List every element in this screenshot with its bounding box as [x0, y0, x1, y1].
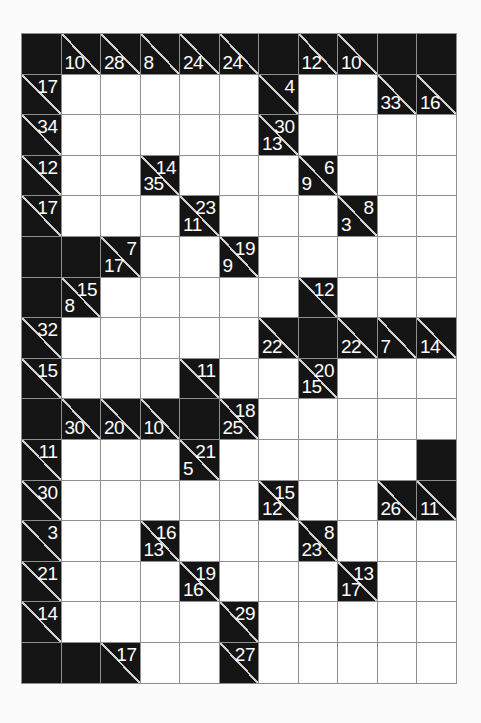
entry-cell[interactable] [62, 75, 101, 115]
entry-cell[interactable] [141, 115, 180, 155]
entry-cell[interactable] [338, 481, 377, 521]
entry-cell[interactable] [338, 75, 377, 115]
entry-cell[interactable] [141, 278, 180, 318]
entry-cell[interactable] [101, 278, 140, 318]
entry-cell[interactable] [62, 359, 101, 399]
entry-cell[interactable] [417, 237, 456, 277]
entry-cell[interactable] [378, 115, 417, 155]
entry-cell[interactable] [417, 521, 456, 561]
entry-cell[interactable] [141, 481, 180, 521]
entry-cell[interactable] [417, 115, 456, 155]
entry-cell[interactable] [259, 643, 298, 683]
entry-cell[interactable] [417, 643, 456, 683]
entry-cell[interactable] [259, 156, 298, 196]
entry-cell[interactable] [101, 196, 140, 236]
entry-cell[interactable] [62, 602, 101, 642]
entry-cell[interactable] [378, 359, 417, 399]
entry-cell[interactable] [101, 115, 140, 155]
entry-cell[interactable] [220, 318, 259, 358]
entry-cell[interactable] [378, 237, 417, 277]
entry-cell[interactable] [299, 75, 338, 115]
entry-cell[interactable] [220, 359, 259, 399]
entry-cell[interactable] [180, 278, 219, 318]
entry-cell[interactable] [220, 481, 259, 521]
entry-cell[interactable] [259, 602, 298, 642]
entry-cell[interactable] [338, 359, 377, 399]
entry-cell[interactable] [180, 318, 219, 358]
entry-cell[interactable] [141, 602, 180, 642]
entry-cell[interactable] [259, 359, 298, 399]
entry-cell[interactable] [220, 562, 259, 602]
entry-cell[interactable] [378, 278, 417, 318]
entry-cell[interactable] [299, 115, 338, 155]
entry-cell[interactable] [62, 156, 101, 196]
entry-cell[interactable] [417, 399, 456, 439]
entry-cell[interactable] [378, 562, 417, 602]
entry-cell[interactable] [259, 399, 298, 439]
entry-cell[interactable] [378, 643, 417, 683]
entry-cell[interactable] [338, 278, 377, 318]
entry-cell[interactable] [180, 237, 219, 277]
entry-cell[interactable] [378, 156, 417, 196]
entry-cell[interactable] [220, 156, 259, 196]
entry-cell[interactable] [220, 75, 259, 115]
entry-cell[interactable] [62, 196, 101, 236]
entry-cell[interactable] [220, 196, 259, 236]
entry-cell[interactable] [417, 196, 456, 236]
entry-cell[interactable] [378, 196, 417, 236]
entry-cell[interactable] [417, 278, 456, 318]
entry-cell[interactable] [417, 602, 456, 642]
entry-cell[interactable] [299, 237, 338, 277]
entry-cell[interactable] [417, 359, 456, 399]
entry-cell[interactable] [220, 278, 259, 318]
entry-cell[interactable] [259, 278, 298, 318]
entry-cell[interactable] [338, 399, 377, 439]
entry-cell[interactable] [180, 481, 219, 521]
entry-cell[interactable] [338, 115, 377, 155]
entry-cell[interactable] [101, 521, 140, 561]
entry-cell[interactable] [378, 440, 417, 480]
entry-cell[interactable] [220, 115, 259, 155]
entry-cell[interactable] [259, 196, 298, 236]
entry-cell[interactable] [417, 562, 456, 602]
entry-cell[interactable] [62, 481, 101, 521]
entry-cell[interactable] [62, 562, 101, 602]
entry-cell[interactable] [141, 318, 180, 358]
entry-cell[interactable] [338, 643, 377, 683]
entry-cell[interactable] [180, 521, 219, 561]
entry-cell[interactable] [101, 156, 140, 196]
entry-cell[interactable] [259, 237, 298, 277]
entry-cell[interactable] [101, 562, 140, 602]
entry-cell[interactable] [417, 156, 456, 196]
entry-cell[interactable] [378, 399, 417, 439]
entry-cell[interactable] [141, 440, 180, 480]
entry-cell[interactable] [299, 196, 338, 236]
entry-cell[interactable] [378, 602, 417, 642]
entry-cell[interactable] [141, 196, 180, 236]
entry-cell[interactable] [101, 75, 140, 115]
entry-cell[interactable] [101, 318, 140, 358]
entry-cell[interactable] [338, 237, 377, 277]
entry-cell[interactable] [101, 359, 140, 399]
entry-cell[interactable] [141, 359, 180, 399]
entry-cell[interactable] [220, 521, 259, 561]
entry-cell[interactable] [180, 602, 219, 642]
entry-cell[interactable] [141, 237, 180, 277]
entry-cell[interactable] [299, 602, 338, 642]
entry-cell[interactable] [141, 75, 180, 115]
entry-cell[interactable] [141, 643, 180, 683]
entry-cell[interactable] [259, 562, 298, 602]
entry-cell[interactable] [62, 521, 101, 561]
entry-cell[interactable] [338, 156, 377, 196]
entry-cell[interactable] [299, 440, 338, 480]
entry-cell[interactable] [299, 399, 338, 439]
entry-cell[interactable] [338, 602, 377, 642]
entry-cell[interactable] [378, 521, 417, 561]
entry-cell[interactable] [62, 318, 101, 358]
entry-cell[interactable] [299, 562, 338, 602]
entry-cell[interactable] [299, 481, 338, 521]
entry-cell[interactable] [141, 562, 180, 602]
entry-cell[interactable] [180, 156, 219, 196]
entry-cell[interactable] [62, 115, 101, 155]
entry-cell[interactable] [101, 481, 140, 521]
